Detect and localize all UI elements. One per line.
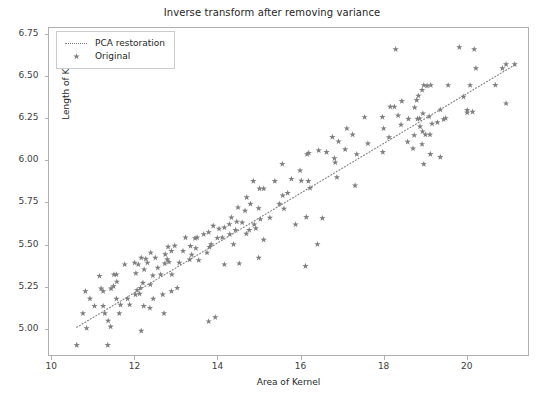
y-tick-mark [45,245,49,246]
data-point [187,243,193,249]
data-point [280,192,286,198]
data-point [380,149,386,155]
x-tick-mark [467,356,468,360]
y-tick-mark [45,202,49,203]
data-point [122,261,128,267]
data-point [342,146,348,152]
data-point [344,125,350,131]
data-point [456,44,462,50]
data-point [82,288,88,294]
data-point [417,123,423,129]
data-point [419,128,425,134]
data-point [292,221,298,227]
x-tick-mark [217,356,218,360]
data-point [503,61,509,67]
data-point [189,251,195,257]
chart-title: Inverse transform after removing varianc… [0,7,544,18]
data-point [411,132,417,138]
data-point [361,114,367,120]
pca-restoration-line [77,65,515,327]
data-point [221,224,227,230]
data-point [297,167,303,173]
data-point [256,254,262,260]
y-tick-label: 6.25 [18,112,38,122]
data-point [272,178,278,184]
data-point [473,65,479,71]
data-point [302,263,308,269]
data-point [162,251,168,257]
data-point [379,114,385,120]
data-point [305,178,311,184]
y-tick-label: 5.75 [18,196,38,206]
data-point [381,125,387,131]
data-point [428,82,434,88]
data-point [399,98,405,104]
data-canvas [49,28,528,355]
star-marker-icon [63,52,89,61]
data-point [285,190,291,196]
data-point [212,314,218,320]
data-point [246,227,252,233]
data-point [127,301,133,307]
data-point [140,280,146,286]
x-tick-label: 18 [378,361,389,371]
x-tick-mark [301,356,302,360]
data-point [427,151,433,157]
data-point [288,176,294,182]
data-point [158,271,164,277]
data-point [161,310,167,316]
y-tick-label: 6.00 [18,154,38,164]
data-point [147,305,153,311]
data-point [210,223,216,229]
data-point [352,182,358,188]
x-tick-label: 12 [129,361,140,371]
data-point [469,109,475,115]
data-point [180,248,186,254]
y-tick-mark [45,118,49,119]
data-point [419,87,425,93]
x-tick-label: 14 [212,361,223,371]
plot-area [48,27,529,356]
data-point [267,215,273,221]
data-point [150,272,156,278]
data-point [165,244,171,250]
x-tick-mark [134,356,135,360]
data-point [242,208,248,214]
data-point [391,104,397,110]
data-point [419,141,425,147]
y-tick-label: 6.75 [18,28,38,38]
data-point [152,254,158,260]
data-point [420,110,426,116]
data-point [398,121,404,127]
data-point [256,205,262,211]
legend-item-original: Original [63,50,165,63]
data-point [226,221,232,227]
data-point [196,257,202,263]
data-point [261,185,267,191]
data-point [412,104,418,110]
data-point [235,204,241,210]
data-point [424,83,430,89]
data-point [216,225,222,231]
data-point [228,214,234,220]
data-point [471,46,477,52]
data-point [410,145,416,151]
data-point [74,342,80,348]
legend-label-pca-restoration: PCA restoration [89,39,165,48]
data-point [91,303,97,309]
data-point [405,116,411,122]
data-point [437,154,443,160]
data-point [100,303,106,309]
data-point [80,310,86,316]
data-point [467,82,473,88]
data-point [143,256,149,262]
data-point [105,342,111,348]
y-tick-label: 6.50 [18,70,38,80]
legend: PCA restoration Original [56,31,175,69]
data-point [247,201,253,207]
data-point [323,149,329,155]
data-point [148,249,154,255]
data-point [239,219,245,225]
data-point [316,147,322,153]
data-point [335,138,341,144]
